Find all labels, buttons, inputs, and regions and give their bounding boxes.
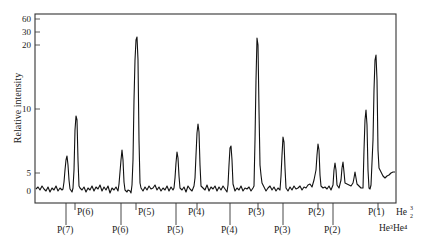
y-tick-label: 30 <box>22 27 32 37</box>
y-axis-ticks: 60 30 20 10 5 0 <box>22 14 40 196</box>
y-tick-label: 60 <box>22 14 32 24</box>
y-tick-label: 20 <box>22 40 32 50</box>
svg-text:2: 2 <box>410 213 413 219</box>
y-tick-label: 5 <box>27 168 32 178</box>
spectrum-trace <box>36 37 395 193</box>
he2-3-line-label: P(4) <box>188 207 204 218</box>
he2-3-line-label: P(3) <box>248 207 264 218</box>
he3he4-tick-row: P(7) P(6) P(5) P(4) P(3) P(2) He³He⁴ <box>57 203 408 236</box>
he2-3-line-label: P(2) <box>308 207 324 218</box>
he2-3-series-label: He 3 2 <box>396 205 413 219</box>
y-tick-label: 10 <box>22 104 32 114</box>
he3he4-line-label: P(6) <box>112 225 128 236</box>
svg-text:He: He <box>396 207 407 217</box>
he2-3-line-label: P(1) <box>368 207 384 218</box>
svg-text:3: 3 <box>410 205 413 211</box>
he3he4-line-label: P(3) <box>274 225 290 236</box>
he3he4-series-label: He³He⁴ <box>379 223 408 233</box>
mass-spectrum-chart: Relative intensity 60 30 20 10 5 0 P(6) … <box>0 0 423 243</box>
he2-3-line-label: P(6) <box>77 207 93 218</box>
he2-3-line-label: P(5) <box>138 207 154 218</box>
he2-3-tick-row: P(6) P(5) P(4) P(3) P(2) P(1) He 3 2 <box>75 203 413 219</box>
he3he4-line-label: P(5) <box>167 225 183 236</box>
he3he4-line-label: P(7) <box>57 225 73 236</box>
y-tick-label: 0 <box>27 186 32 196</box>
he3he4-line-label: P(4) <box>221 225 237 236</box>
he3he4-line-label: P(2) <box>324 225 340 236</box>
